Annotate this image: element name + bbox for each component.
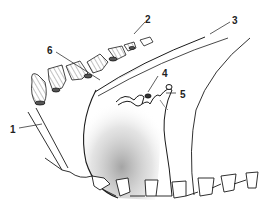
left-rod xyxy=(28,108,92,177)
label-1: 1 xyxy=(10,125,16,135)
label-3: 3 xyxy=(232,16,238,26)
anatomical-figure: 1 2 3 4 5 6 xyxy=(0,0,272,215)
drawing-canvas xyxy=(0,0,272,215)
label-5: 5 xyxy=(180,90,186,100)
label-4: 4 xyxy=(162,69,168,79)
right-contour xyxy=(191,38,250,195)
label-2: 2 xyxy=(145,15,151,25)
label-6: 6 xyxy=(47,46,53,56)
long-rod xyxy=(95,37,228,96)
